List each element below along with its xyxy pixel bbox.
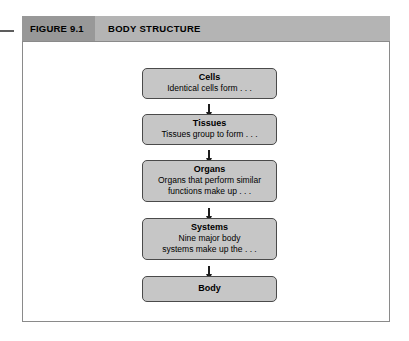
flow-node-cells-title: Cells — [146, 72, 273, 83]
flow-node-tissues-title: Tissues — [146, 118, 273, 129]
flow-node-systems-description: Nine major body systems make up the . . … — [146, 233, 273, 255]
flow-node-tissues: Tissues Tissues group to form . . . — [142, 114, 277, 145]
figure-title: BODY STRUCTURE — [108, 23, 201, 34]
flow-node-cells: Cells Identical cells form . . . — [142, 68, 277, 99]
flow-arrow-tissues-to-organs — [208, 150, 210, 159]
flow-node-organs-description: Organs that perform similar functions ma… — [146, 175, 273, 197]
flow-node-systems-title: Systems — [146, 222, 273, 233]
figure-number-label: FIGURE 9.1 — [30, 23, 84, 34]
flow-node-body: Body — [142, 276, 277, 302]
flow-arrow-organs-to-systems — [208, 208, 210, 217]
flow-node-organs-title: Organs — [146, 164, 273, 175]
flow-node-organs: Organs Organs that perform similar funct… — [142, 160, 277, 202]
body-structure-flowchart: Cells Identical cells form . . . Tissues… — [23, 42, 391, 323]
figure-content-frame: Cells Identical cells form . . . Tissues… — [22, 41, 390, 322]
flow-node-systems: Systems Nine major body systems make up … — [142, 218, 277, 260]
page-margin-tick — [0, 30, 14, 32]
flow-arrow-systems-to-body — [208, 266, 210, 275]
flow-node-tissues-description: Tissues group to form . . . — [146, 129, 273, 140]
flow-node-cells-description: Identical cells form . . . — [146, 83, 273, 94]
flow-node-body-title: Body — [146, 283, 273, 294]
figure-header-bar: FIGURE 9.1 BODY STRUCTURE — [22, 16, 390, 41]
flow-arrow-cells-to-tissues — [208, 104, 210, 113]
